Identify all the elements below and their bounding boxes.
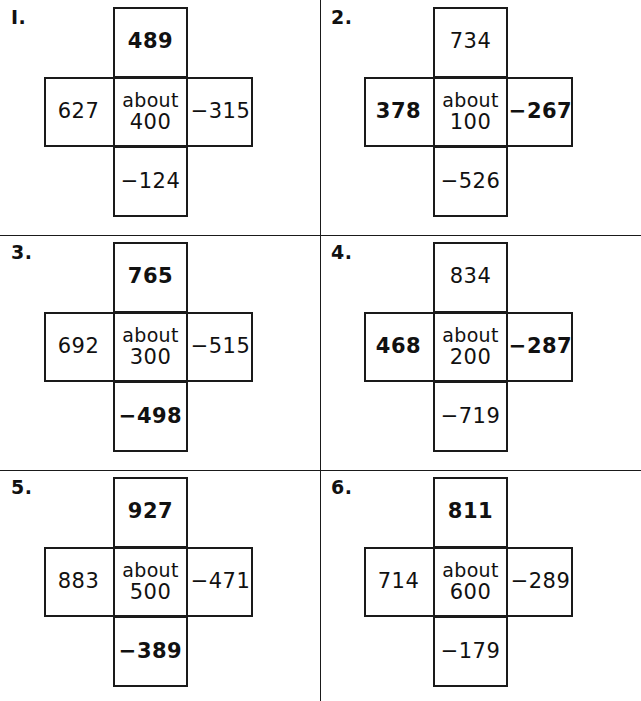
problem-number: 5.	[11, 478, 32, 497]
bottom-addend: −719	[433, 382, 508, 452]
bottom-addend: −498	[113, 382, 188, 452]
bottom-addend: −124	[113, 147, 188, 217]
problem-number: 2.	[331, 8, 352, 27]
problem-5: 5.927883about500−471−389	[0, 470, 320, 701]
cross-figure: 834468about200−287−719	[364, 242, 579, 454]
top-addend: 734	[433, 7, 508, 77]
left-addend: 714	[364, 547, 433, 617]
estimate-label: about	[122, 560, 178, 581]
estimate-label: about	[442, 560, 498, 581]
problem-1: I.489627about400−315−124	[0, 0, 320, 234]
estimate-label: about	[122, 90, 178, 111]
left-addend: 883	[44, 547, 113, 617]
problem-number: 3.	[11, 243, 32, 262]
cross-figure: 811714about600−289−179	[364, 477, 579, 689]
top-addend: 811	[433, 477, 508, 547]
left-addend: 468	[364, 312, 433, 382]
problem-number: 4.	[331, 243, 352, 262]
estimate-cell: about200	[433, 312, 508, 382]
estimate-cell: about100	[433, 77, 508, 147]
bottom-addend: −526	[433, 147, 508, 217]
problem-2: 2.734378about100−267−526	[320, 0, 640, 234]
problem-3: 3.765692about300−515−498	[0, 235, 320, 469]
estimate-value: 300	[130, 346, 172, 370]
bottom-addend: −389	[113, 617, 188, 687]
top-addend: 834	[433, 242, 508, 312]
estimate-value: 200	[450, 346, 492, 370]
estimate-value: 100	[450, 111, 492, 135]
bottom-addend: −179	[433, 617, 508, 687]
estimate-cell: about600	[433, 547, 508, 617]
problem-number: I.	[11, 8, 26, 27]
estimate-label: about	[442, 90, 498, 111]
cross-figure: 734378about100−267−526	[364, 7, 579, 219]
estimate-cell: about300	[113, 312, 188, 382]
left-addend: 692	[44, 312, 113, 382]
right-addend: −267	[508, 77, 573, 147]
left-addend: 627	[44, 77, 113, 147]
estimate-value: 500	[130, 581, 172, 605]
right-addend: −289	[508, 547, 573, 617]
top-addend: 765	[113, 242, 188, 312]
estimate-label: about	[442, 325, 498, 346]
right-addend: −287	[508, 312, 573, 382]
estimate-cell: about400	[113, 77, 188, 147]
problem-6: 6.811714about600−289−179	[320, 470, 640, 701]
left-addend: 378	[364, 77, 433, 147]
top-addend: 489	[113, 7, 188, 77]
right-addend: −315	[188, 77, 253, 147]
estimate-label: about	[122, 325, 178, 346]
right-addend: −515	[188, 312, 253, 382]
estimate-cell: about500	[113, 547, 188, 617]
cross-figure: 927883about500−471−389	[44, 477, 259, 689]
problem-number: 6.	[331, 478, 352, 497]
cross-figure: 765692about300−515−498	[44, 242, 259, 454]
estimate-value: 600	[450, 581, 492, 605]
top-addend: 927	[113, 477, 188, 547]
right-addend: −471	[188, 547, 253, 617]
cross-figure: 489627about400−315−124	[44, 7, 259, 219]
estimate-value: 400	[130, 111, 172, 135]
problem-4: 4.834468about200−287−719	[320, 235, 640, 469]
